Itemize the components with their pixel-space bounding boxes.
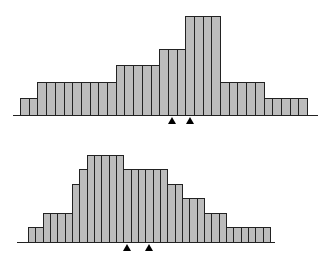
histogram-bar [263,227,271,243]
triangle-marker-icon [145,244,153,251]
triangle-marker-icon [123,244,131,251]
histogram-bottom [0,0,329,257]
